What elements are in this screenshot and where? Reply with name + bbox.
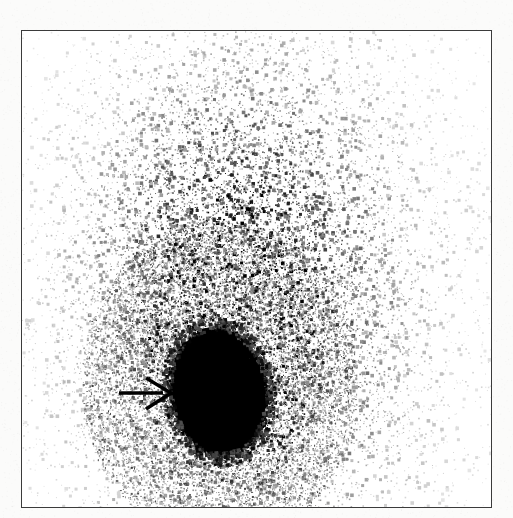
- scintigraphy-figure: [0, 0, 513, 518]
- scan-frame-border: [21, 30, 492, 508]
- scan-image-canvas: [22, 31, 492, 508]
